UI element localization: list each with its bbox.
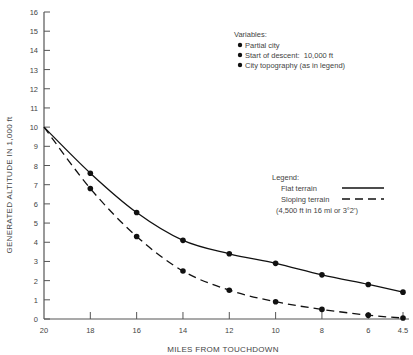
y-tick-label: 1 — [34, 296, 38, 305]
data-point — [365, 282, 371, 288]
bullet-icon — [238, 63, 242, 67]
variable-item: City topography (as in legend) — [245, 61, 346, 70]
data-point — [180, 238, 186, 244]
legend-title: Legend: — [272, 173, 299, 182]
x-tick-label: 4.5 — [398, 326, 408, 335]
x-axis-ticks: 201816141210864.5 — [40, 312, 408, 335]
data-point — [134, 234, 140, 240]
data-point — [180, 268, 186, 274]
data-point — [273, 261, 279, 267]
x-tick-label: 12 — [225, 326, 233, 335]
data-point — [226, 251, 232, 257]
variables-annotation: Variables: Partial city Start of descent… — [234, 30, 346, 70]
x-axis-label: MILES FROM TOUCHDOWN — [167, 345, 278, 354]
data-point — [400, 289, 406, 295]
data-point — [88, 170, 94, 176]
y-tick-label: 2 — [34, 277, 38, 286]
y-tick-label: 14 — [30, 46, 38, 55]
y-tick-label: 8 — [34, 162, 38, 171]
y-axis-ticks: 012345678910111213141516 — [30, 8, 50, 324]
y-tick-label: 0 — [34, 315, 38, 324]
chart-series — [44, 127, 406, 321]
chart-axes — [44, 12, 409, 319]
y-tick-label: 16 — [30, 8, 38, 17]
x-tick-label: 14 — [179, 326, 187, 335]
data-point — [400, 315, 406, 321]
y-tick-label: 11 — [30, 104, 38, 113]
variable-item: Start of descent: 10,000 ft — [245, 51, 334, 60]
x-tick-label: 18 — [86, 326, 94, 335]
y-tick-label: 10 — [30, 123, 38, 132]
y-tick-label: 15 — [30, 27, 38, 36]
y-tick-label: 13 — [30, 66, 38, 75]
data-point — [365, 312, 371, 318]
altitude-chart: 012345678910111213141516 201816141210864… — [0, 0, 413, 355]
y-tick-label: 12 — [30, 85, 38, 94]
y-tick-label: 9 — [34, 142, 38, 151]
bullet-icon — [238, 43, 242, 47]
variable-item: Partial city — [245, 41, 280, 50]
x-tick-label: 20 — [40, 326, 48, 335]
sloping-terrain-line — [44, 127, 403, 318]
data-point — [319, 307, 325, 313]
chart-legend: Legend: Flat terrain Sloping terrain (4,… — [272, 173, 384, 215]
data-point — [226, 287, 232, 293]
bullet-icon — [238, 53, 242, 57]
legend-entry-sloping: Sloping terrain — [281, 195, 329, 204]
y-tick-label: 5 — [34, 219, 38, 228]
x-tick-label: 16 — [132, 326, 140, 335]
y-tick-label: 3 — [34, 257, 38, 266]
x-tick-label: 8 — [320, 326, 324, 335]
variables-title: Variables: — [234, 30, 267, 39]
data-point — [319, 272, 325, 278]
y-tick-label: 6 — [34, 200, 38, 209]
data-point — [88, 186, 94, 192]
x-tick-label: 6 — [366, 326, 370, 335]
legend-entry-flat: Flat terrain — [281, 184, 317, 193]
y-tick-label: 4 — [34, 238, 38, 247]
x-tick-label: 10 — [271, 326, 279, 335]
data-point — [134, 210, 140, 216]
y-tick-label: 7 — [34, 181, 38, 190]
y-axis-label: GENERATED ALTITUDE IN 1,000 ft — [5, 116, 14, 254]
data-point — [273, 299, 279, 305]
legend-note: (4,500 ft in 16 mi or 3°2') — [276, 206, 358, 215]
